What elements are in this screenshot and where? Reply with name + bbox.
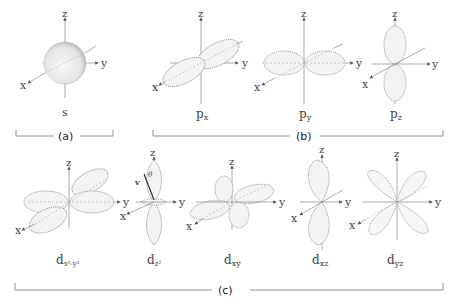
bracket-a: (a) [16, 130, 113, 143]
svg-text:z: z [150, 147, 155, 158]
svg-text:z: z [392, 8, 397, 19]
orbital-label-py: py [299, 107, 312, 122]
svg-text:z: z [198, 8, 203, 19]
svg-text:y: y [278, 196, 286, 209]
svg-text:z: z [229, 156, 234, 167]
orbital-diagram: z y x s z y x px z y x py [0, 0, 453, 304]
s-orbital: z y x s [20, 8, 108, 119]
svg-text:z: z [66, 157, 71, 168]
svg-text:x: x [15, 224, 22, 237]
bracket-b: (b) [153, 130, 443, 143]
svg-text:x: x [362, 78, 369, 91]
svg-text:y: y [344, 196, 352, 209]
svg-text:y: y [431, 58, 439, 71]
py-orbital: z y x py [254, 8, 363, 122]
vector-label: v [134, 177, 140, 187]
x-axis-label: x [20, 79, 27, 92]
svg-text:z: z [319, 144, 324, 155]
orbital-label-dyz: dyz [387, 253, 403, 268]
svg-text:(a): (a) [58, 130, 73, 143]
svg-text:z: z [301, 8, 306, 19]
orbital-label-s: s [62, 106, 68, 119]
orbital-label-px: px [196, 107, 209, 122]
px-orbital: z y x px [152, 8, 249, 122]
orbital-label-dz2: dz² [147, 253, 161, 268]
orbital-label-dxy: dxy [224, 253, 241, 268]
svg-text:y: y [434, 196, 442, 209]
dxy-orbital: z y x dxy [186, 156, 286, 268]
dxz-orbital: z y x dxz [291, 144, 352, 268]
orbital-label-dx2-y2: dx²-y² [56, 253, 80, 268]
dyz-orbital: z y x dyz [349, 148, 442, 268]
svg-text:(c): (c) [218, 284, 233, 297]
y-axis-label: y [100, 57, 108, 70]
x-axis [28, 73, 45, 83]
svg-text:y: y [178, 196, 186, 209]
svg-text:y: y [355, 57, 363, 70]
svg-text:y: y [122, 196, 130, 209]
dx2-y2-orbital: z y x dx²-y² [15, 157, 130, 268]
s-sphere [44, 42, 86, 84]
z-axis-label: z [62, 8, 67, 19]
pz-orbital: z y x pz [362, 8, 439, 122]
orbital-label-dxz: dxz [312, 253, 328, 268]
svg-text:z: z [394, 148, 399, 159]
svg-text:x: x [120, 210, 127, 223]
svg-text:x: x [152, 81, 159, 94]
svg-text:y: y [241, 57, 249, 70]
svg-text:x: x [186, 220, 193, 233]
svg-text:x: x [254, 81, 261, 94]
orbital-label-pz: pz [390, 107, 402, 122]
bracket-c: (c) [15, 283, 443, 297]
dz2-orbital: z θ v y x dz² [120, 147, 186, 268]
svg-text:x: x [349, 219, 356, 232]
svg-text:x: x [291, 212, 298, 225]
svg-text:(b): (b) [296, 130, 312, 143]
